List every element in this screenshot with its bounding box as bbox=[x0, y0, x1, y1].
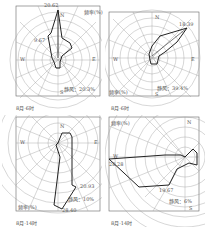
unit-label: 频率(%) bbox=[111, 119, 130, 126]
panel-caption: 8月·14时 bbox=[16, 219, 37, 226]
secondary-value: 9.67 bbox=[34, 37, 45, 43]
wind-rose-panel-b: N 18.39 W E S 静风：39.4% 频率(%) 8月·6时 bbox=[105, 0, 205, 112]
south-label: S bbox=[189, 205, 192, 211]
panel-caption: 8月·6时 bbox=[111, 104, 129, 111]
unit-label: 频率(%) bbox=[109, 88, 128, 95]
west-label: W bbox=[113, 153, 118, 159]
secondary-value: 19.67 bbox=[159, 187, 173, 193]
north-label: N bbox=[155, 14, 159, 20]
north-label: N bbox=[60, 12, 64, 18]
north-label: N bbox=[60, 123, 64, 129]
wind-rose-chart-c bbox=[2, 115, 102, 227]
wind-rose-chart-a bbox=[2, 0, 102, 112]
south-label: S bbox=[155, 91, 158, 97]
south-label: S bbox=[60, 89, 63, 95]
top-label: 28.40 bbox=[62, 207, 76, 213]
top-label: 20.62 bbox=[44, 2, 58, 8]
wind-rose-panel-c: N W E 20.93 28.40 静风：10% 频率(%) 8月·14时 bbox=[2, 115, 102, 227]
panel-caption: 8月·14时 bbox=[111, 219, 132, 226]
top-label: 28.28 bbox=[109, 161, 123, 167]
calm-label: 静风：10% bbox=[68, 195, 94, 202]
west-label: W bbox=[20, 56, 25, 62]
panel-caption: 8月·6时 bbox=[16, 104, 34, 111]
north-label: N bbox=[187, 119, 191, 125]
secondary-value: 20.93 bbox=[80, 183, 94, 189]
unit-label: 频率(%) bbox=[18, 203, 37, 210]
wind-rose-panel-a: 20.62 N W E S 9.67 静风：20.3% 频率(%) 8月·6时 bbox=[2, 0, 102, 112]
wind-rose-panel-d: N W 28.28 19.67 静风：6% S 频率(%) 8月·14时 bbox=[105, 115, 205, 227]
calm-label: 静风：39.4% bbox=[157, 84, 188, 91]
calm-label: 静风：20.3% bbox=[64, 85, 95, 92]
east-label: E bbox=[94, 139, 98, 145]
east-label: E bbox=[92, 56, 96, 62]
unit-label: 频率(%) bbox=[84, 8, 103, 15]
west-label: W bbox=[113, 56, 118, 62]
top-label: 18.39 bbox=[179, 21, 193, 27]
calm-label: 静风：6% bbox=[169, 197, 192, 204]
west-label: W bbox=[20, 139, 25, 145]
east-label: E bbox=[191, 56, 195, 62]
